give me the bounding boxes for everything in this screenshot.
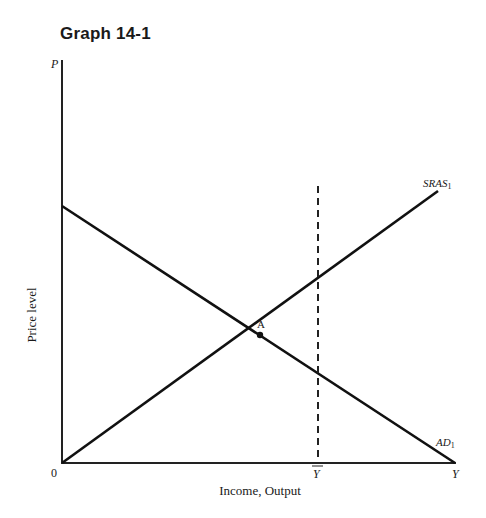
origin-label: 0 [51, 466, 57, 480]
potential-output-label: Y [313, 467, 321, 481]
x-axis-symbol: Y [452, 467, 460, 481]
chart-canvas: P 0 Price level Income, Output Y Y A SRA… [0, 0, 486, 518]
sras1-curve [62, 191, 438, 463]
x-axis-label: Income, Output [219, 483, 301, 498]
sras1-label: SRAS1 [423, 177, 451, 191]
ad1-label: AD1 [435, 436, 455, 450]
y-axis-symbol: P [50, 57, 59, 71]
y-axis-label: Price level [24, 287, 39, 343]
equilibrium-point-a [257, 332, 263, 338]
point-a-label: A [257, 318, 265, 330]
